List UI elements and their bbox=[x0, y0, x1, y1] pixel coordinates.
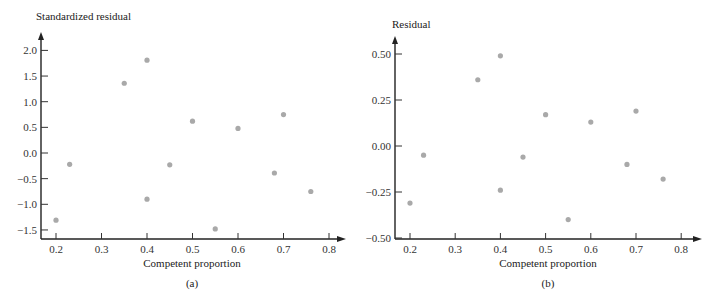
x-tick-label: 0.7 bbox=[629, 243, 643, 255]
panel-caption: (b) bbox=[542, 277, 555, 289]
y-tick-label: 1.5 bbox=[23, 70, 37, 82]
data-point bbox=[281, 112, 286, 117]
scatter-plot: 0.20.30.40.50.60.70.8−1.5−1.0−0.50.00.51… bbox=[0, 0, 357, 297]
panel-caption: (a) bbox=[186, 277, 198, 289]
data-point bbox=[407, 200, 412, 205]
y-tick-label: −0.25 bbox=[366, 186, 392, 198]
x-tick-label: 0.8 bbox=[322, 243, 336, 255]
chart-panel-b: Residual 0.20.30.40.50.60.70.8−0.50−0.25… bbox=[357, 0, 714, 297]
scatter-plot: 0.20.30.40.50.60.70.8−0.50−0.250.000.250… bbox=[357, 0, 715, 297]
data-point bbox=[543, 112, 548, 117]
data-point bbox=[520, 154, 525, 159]
arrow-up-icon bbox=[392, 36, 398, 44]
y-tick-label: −1.0 bbox=[17, 198, 37, 210]
data-point bbox=[588, 119, 593, 124]
x-tick-label: 0.4 bbox=[494, 243, 508, 255]
x-tick-label: 0.5 bbox=[186, 243, 200, 255]
data-point bbox=[308, 189, 313, 194]
y-tick-label: −0.5 bbox=[17, 173, 37, 185]
data-point bbox=[144, 58, 149, 63]
y-tick-label: −1.5 bbox=[17, 224, 37, 236]
x-tick-label: 0.6 bbox=[584, 243, 598, 255]
x-tick-label: 0.7 bbox=[277, 243, 291, 255]
data-point bbox=[475, 77, 480, 82]
x-tick-label: 0.2 bbox=[403, 243, 417, 255]
data-point bbox=[633, 108, 638, 113]
y-tick-label: 0.25 bbox=[372, 94, 392, 106]
y-tick-label: 0.0 bbox=[23, 147, 37, 159]
data-point bbox=[122, 81, 127, 86]
data-point bbox=[624, 162, 629, 167]
data-point bbox=[190, 119, 195, 124]
data-point bbox=[144, 197, 149, 202]
data-point bbox=[566, 217, 571, 222]
x-tick-label: 0.5 bbox=[539, 243, 553, 255]
x-axis-label: Competent proportion bbox=[499, 257, 596, 269]
y-tick-label: −0.50 bbox=[366, 232, 392, 244]
data-point bbox=[167, 162, 172, 167]
x-tick-label: 0.3 bbox=[448, 243, 462, 255]
chart-panel-a: Standardized residual 0.20.30.40.50.60.7… bbox=[0, 0, 357, 297]
y-tick-label: 0.50 bbox=[372, 48, 392, 60]
x-tick-label: 0.6 bbox=[231, 243, 245, 255]
x-tick-label: 0.4 bbox=[140, 243, 154, 255]
data-point bbox=[661, 177, 666, 182]
data-point bbox=[235, 126, 240, 131]
y-tick-label: 1.0 bbox=[23, 96, 37, 108]
data-point bbox=[67, 162, 72, 167]
y-tick-label: 2.0 bbox=[23, 44, 37, 56]
x-tick-label: 0.2 bbox=[49, 243, 63, 255]
x-tick-label: 0.8 bbox=[674, 243, 688, 255]
x-tick-label: 0.3 bbox=[95, 243, 109, 255]
y-tick-label: 0.5 bbox=[23, 121, 37, 133]
x-axis-label: Competent proportion bbox=[143, 257, 240, 269]
data-point bbox=[272, 170, 277, 175]
arrow-right-icon bbox=[337, 236, 346, 242]
arrow-up-icon bbox=[38, 32, 44, 40]
data-point bbox=[53, 218, 58, 223]
y-tick-label: 0.00 bbox=[372, 140, 392, 152]
data-point bbox=[213, 226, 218, 231]
data-point bbox=[498, 53, 503, 58]
arrow-right-icon bbox=[693, 236, 702, 242]
data-point bbox=[498, 188, 503, 193]
data-point bbox=[421, 153, 426, 158]
